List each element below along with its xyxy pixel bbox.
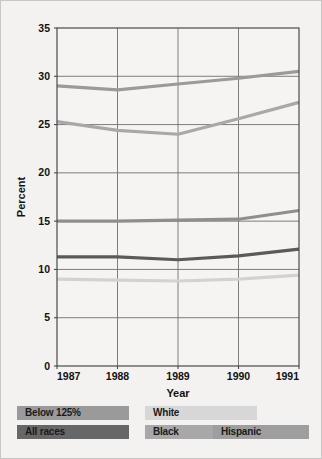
legend-label: Hispanic xyxy=(213,425,261,439)
legend-item-below-125[interactable]: Below 125% xyxy=(17,406,129,420)
x-tick-label: 1987 xyxy=(57,370,81,382)
figure-panel: 05101520253035 19871988198919901991 Perc… xyxy=(0,0,322,459)
x-tick-label: 1990 xyxy=(227,370,251,382)
x-tick-label: 1988 xyxy=(106,370,130,382)
chart-legend: Below 125%White All racesBlackHispanic xyxy=(17,406,309,442)
legend-row: All racesBlackHispanic xyxy=(17,425,309,439)
x-tick-labels: 19871988198919901991 xyxy=(57,366,299,382)
y-tick-label: 35 xyxy=(38,22,50,34)
legend-label: Below 125% xyxy=(17,406,81,420)
x-tick-label: 1989 xyxy=(166,370,190,382)
y-tick-label: 5 xyxy=(44,311,50,323)
legend-row: Below 125%White xyxy=(17,406,309,420)
y-tick-labels: 05101520253035 xyxy=(38,22,57,372)
y-axis-title: Percent xyxy=(15,176,27,217)
y-tick-label: 25 xyxy=(38,118,50,130)
legend-label: Black xyxy=(145,425,179,439)
legend-label: All races xyxy=(17,425,65,439)
y-tick-label: 20 xyxy=(38,166,50,178)
y-tick-label: 30 xyxy=(38,70,50,82)
chart-svg: 05101520253035 19871988198919901991 Perc… xyxy=(1,1,322,401)
y-tick-label: 10 xyxy=(38,263,50,275)
legend-item-all-races[interactable]: All races xyxy=(17,425,129,439)
x-axis-title: Year xyxy=(166,387,190,399)
legend-label: White xyxy=(145,406,179,420)
y-tick-label: 0 xyxy=(44,360,50,372)
legend-item-white[interactable]: White xyxy=(145,406,257,420)
line-chart: 05101520253035 19871988198919901991 Perc… xyxy=(1,1,322,401)
x-tick-label: 1991 xyxy=(276,370,300,382)
legend-item-hispanic[interactable]: Hispanic xyxy=(213,425,309,439)
y-tick-label: 15 xyxy=(38,215,50,227)
